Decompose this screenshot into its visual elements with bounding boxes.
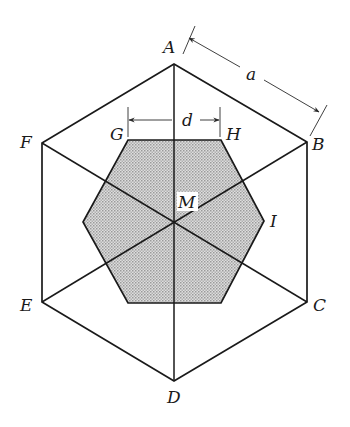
label-I: I bbox=[269, 211, 277, 231]
label-d: d bbox=[182, 110, 193, 130]
label-E: E bbox=[19, 295, 33, 315]
label-B: B bbox=[311, 134, 325, 154]
label-D: D bbox=[166, 387, 181, 407]
label-M: M bbox=[177, 192, 196, 212]
label-F: F bbox=[19, 132, 33, 152]
label-G: G bbox=[110, 124, 124, 144]
label-C: C bbox=[313, 295, 326, 315]
hexagon-diagram: A B C D E F G H I M a d bbox=[0, 0, 350, 427]
label-A: A bbox=[161, 37, 175, 57]
label-H: H bbox=[225, 124, 242, 144]
label-a: a bbox=[246, 64, 256, 84]
